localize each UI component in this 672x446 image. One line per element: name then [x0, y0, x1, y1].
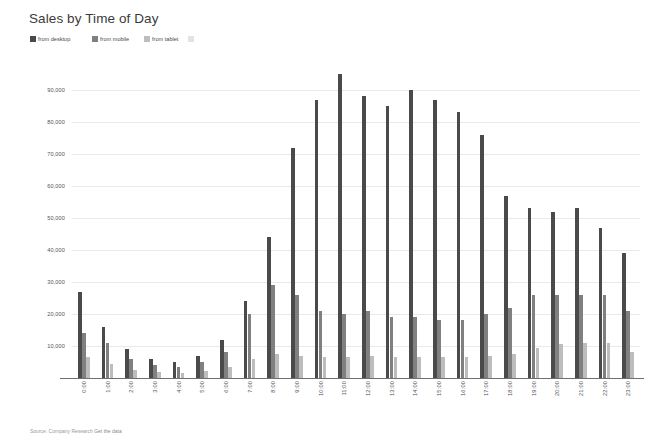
bar-from-mobile[interactable] — [579, 295, 583, 378]
bar-from-desktop[interactable] — [173, 362, 177, 378]
bar-from-mobile[interactable] — [224, 352, 228, 378]
bar-from-desktop[interactable] — [433, 100, 437, 378]
legend-item-mobile[interactable]: from mobile — [92, 36, 144, 43]
bar-from-tablet[interactable] — [110, 364, 114, 378]
bar-from-desktop[interactable] — [315, 100, 319, 378]
bar-from-mobile[interactable] — [177, 367, 181, 378]
bar-from-tablet[interactable] — [181, 373, 185, 378]
bar-group — [362, 74, 374, 378]
bar-from-mobile[interactable] — [106, 343, 110, 378]
bar-from-mobile[interactable] — [153, 365, 157, 378]
bar-from-desktop[interactable] — [622, 253, 626, 378]
bar-from-tablet[interactable] — [465, 357, 469, 378]
bar-from-tablet[interactable] — [583, 343, 587, 378]
bar-from-desktop[interactable] — [220, 340, 224, 378]
bar-from-desktop[interactable] — [409, 90, 413, 378]
bar-from-mobile[interactable] — [129, 359, 133, 378]
bar-from-tablet[interactable] — [536, 348, 540, 378]
bar-from-mobile[interactable] — [555, 295, 559, 378]
bar-from-tablet[interactable] — [133, 370, 137, 378]
bar-group — [125, 74, 137, 378]
bar-from-tablet[interactable] — [204, 371, 208, 378]
bar-from-mobile[interactable] — [484, 314, 488, 378]
bar-from-desktop[interactable] — [244, 301, 248, 378]
bar-from-mobile[interactable] — [248, 314, 252, 378]
bar-from-desktop[interactable] — [480, 135, 484, 378]
bar-from-mobile[interactable] — [437, 320, 441, 378]
bar-from-tablet[interactable] — [275, 354, 279, 378]
chart-page: Sales by Time of Day from desktop from m… — [0, 0, 672, 446]
legend-overflow-swatch[interactable] — [188, 36, 194, 42]
bar-from-tablet[interactable] — [252, 359, 256, 378]
legend-label-mobile: from mobile — [100, 36, 129, 43]
x-axis-tick-label: 23:00 — [625, 381, 631, 396]
bar-from-mobile[interactable] — [319, 311, 323, 378]
x-axis-tick-label: 20:00 — [554, 381, 560, 396]
bar-from-desktop[interactable] — [504, 196, 508, 378]
bar-from-mobile[interactable] — [626, 311, 630, 378]
bar-from-mobile[interactable] — [200, 362, 204, 378]
bar-from-tablet[interactable] — [512, 354, 516, 378]
bar-from-tablet[interactable] — [394, 357, 398, 378]
x-axis-tick-label: 21:00 — [578, 381, 584, 396]
bar-from-tablet[interactable] — [370, 356, 374, 378]
bar-from-desktop[interactable] — [386, 106, 390, 378]
chart-footer: Source: Company Research Get the data — [30, 428, 122, 434]
bar-group — [551, 74, 563, 378]
bar-from-mobile[interactable] — [532, 295, 536, 378]
bar-from-desktop[interactable] — [362, 96, 366, 378]
bar-from-mobile[interactable] — [82, 333, 86, 378]
bar-from-mobile[interactable] — [390, 317, 394, 378]
bar-from-desktop[interactable] — [267, 237, 271, 378]
bar-from-desktop[interactable] — [196, 356, 200, 378]
bar-from-tablet[interactable] — [559, 344, 563, 378]
bar-from-tablet[interactable] — [299, 356, 303, 378]
bar-from-desktop[interactable] — [125, 349, 129, 378]
get-the-data-link[interactable]: Get the data — [94, 428, 122, 434]
legend-item-tablet[interactable]: from tablet — [144, 36, 188, 43]
bar-from-desktop[interactable] — [338, 74, 342, 378]
x-axis-tick-label: 6:00 — [223, 381, 229, 393]
bar-from-tablet[interactable] — [630, 352, 634, 378]
bar-group — [575, 74, 587, 378]
bar-from-desktop[interactable] — [528, 208, 532, 378]
bar-from-tablet[interactable] — [157, 372, 161, 378]
bar-from-mobile[interactable] — [295, 295, 299, 378]
bar-from-tablet[interactable] — [323, 357, 327, 378]
x-axis-tick-label: 11:00 — [341, 381, 347, 396]
bar-group — [480, 74, 492, 378]
bar-from-desktop[interactable] — [78, 292, 82, 378]
bar-from-desktop[interactable] — [575, 208, 579, 378]
bar-from-tablet[interactable] — [228, 367, 232, 378]
bar-from-mobile[interactable] — [342, 314, 346, 378]
bar-from-mobile[interactable] — [603, 295, 607, 378]
x-axis-tick-label: 4:00 — [176, 381, 182, 393]
bar-from-mobile[interactable] — [366, 311, 370, 378]
bar-from-desktop[interactable] — [551, 212, 555, 378]
bar-from-mobile[interactable] — [508, 308, 512, 378]
y-axis-tick-label: 70,000 — [47, 151, 65, 157]
bar-from-mobile[interactable] — [461, 320, 465, 378]
x-axis-tick-label: 14:00 — [412, 381, 418, 396]
bar-from-tablet[interactable] — [346, 357, 350, 378]
bar-group — [173, 74, 185, 378]
bar-from-desktop[interactable] — [457, 112, 461, 378]
bar-from-mobile[interactable] — [413, 317, 417, 378]
legend-item-desktop[interactable]: from desktop — [30, 36, 92, 43]
bar-from-tablet[interactable] — [488, 356, 492, 378]
bar-from-tablet[interactable] — [441, 357, 445, 378]
bar-from-tablet[interactable] — [417, 357, 421, 378]
x-axis-tick-label: 17:00 — [483, 381, 489, 396]
bar-group — [528, 74, 540, 378]
x-axis-tick-label: 18:00 — [507, 381, 513, 396]
y-axis-tick-label: 90,000 — [47, 87, 65, 93]
bar-from-desktop[interactable] — [599, 228, 603, 378]
page-title: Sales by Time of Day — [29, 11, 159, 26]
bar-from-desktop[interactable] — [102, 327, 106, 378]
bar-from-desktop[interactable] — [149, 359, 153, 378]
bar-from-desktop[interactable] — [291, 148, 295, 378]
bar-from-tablet[interactable] — [86, 357, 90, 378]
legend-label-tablet: from tablet — [152, 36, 178, 43]
bar-from-mobile[interactable] — [271, 285, 275, 378]
bar-from-tablet[interactable] — [607, 343, 611, 378]
